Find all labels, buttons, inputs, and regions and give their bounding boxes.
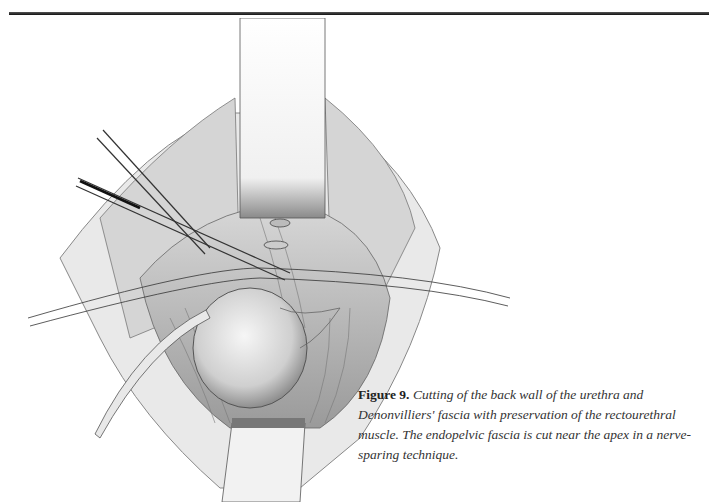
figure-caption: Figure 9. Cutting of the back wall of th…: [358, 385, 718, 465]
header-rule: [9, 12, 709, 15]
figure-label: Figure 9.: [358, 387, 410, 402]
